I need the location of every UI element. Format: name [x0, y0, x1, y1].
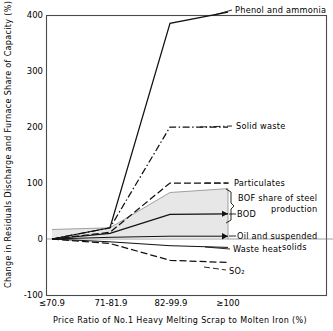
x-tick-label-3: 82-99.9: [155, 298, 188, 308]
x-tick-label-4: ≥100: [216, 298, 239, 308]
series-label-oil-line2: solids: [282, 242, 307, 252]
chart-svg: Change in Residuals Discharge and Furnac…: [0, 0, 333, 331]
series-label-so2: SO₂: [229, 266, 245, 276]
leader-line-phenol: [214, 10, 232, 15]
series-label-waste-heat: Waste heat: [233, 244, 282, 254]
plot-frame: [47, 16, 327, 296]
chart-figure: Change in Residuals Discharge and Furnac…: [0, 0, 333, 331]
y-tick-label-300: 300: [27, 66, 43, 76]
leader-line-so2: [204, 267, 226, 270]
x-tick-label-2: 71-81.9: [95, 298, 128, 308]
x-tick-label-1: ≤70.9: [39, 298, 65, 308]
series-label-solid-waste: Solid waste: [236, 121, 286, 131]
y-tick-label-0: 0: [38, 234, 43, 244]
series-line-so2: [52, 239, 228, 263]
series-label-oil-line1: Oil and suspended: [237, 231, 317, 241]
series-line-waste-heat: [52, 239, 228, 247]
y-tick-label-400: 400: [27, 10, 43, 20]
series-label-bof-share-line2: production: [271, 204, 317, 214]
y-axis-title: Change in Residuals Discharge and Furnac…: [4, 1, 13, 288]
series-label-bod: BOD: [237, 209, 256, 219]
series-label-phenol-and-ammonia: Phenol and ammonia: [235, 5, 326, 15]
series-label-particulates: Particulates: [234, 178, 285, 188]
y-tick-label-200: 200: [27, 122, 43, 132]
series-label-bof-share-line1: BOF share of steel: [238, 193, 317, 203]
y-tick-label-100: 100: [27, 178, 43, 188]
x-axis-title: Price Ratio of No.1 Heavy Melting Scrap …: [53, 316, 307, 325]
